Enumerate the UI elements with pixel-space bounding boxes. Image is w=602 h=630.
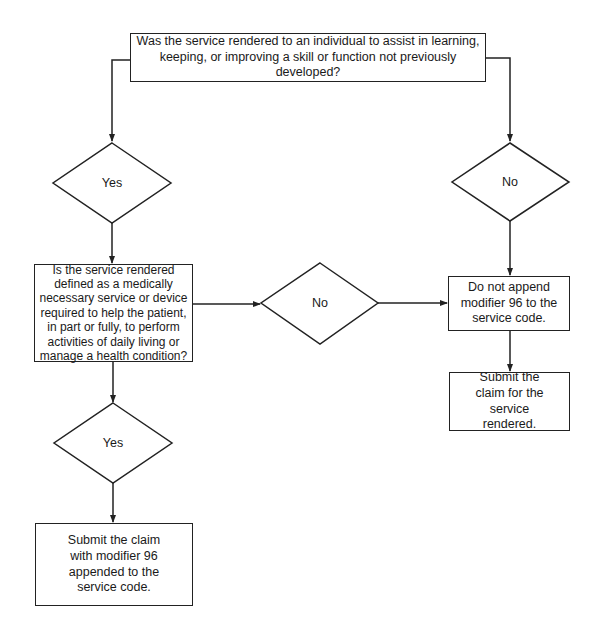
- decision-label-no-1: No: [502, 175, 518, 189]
- question-text: Was the service rendered to an individua…: [135, 34, 481, 81]
- connector-q1-to-no: [485, 58, 510, 141]
- question-box-skill-development: Was the service rendered to an individua…: [130, 33, 486, 82]
- result-text: Do not append modifier 96 to the service…: [453, 280, 565, 327]
- result-text: Submit the claim for the service rendere…: [468, 370, 551, 433]
- result-text: Submit the claim with modifier 96 append…: [56, 533, 172, 596]
- connector-q1-to-yes: [112, 60, 130, 141]
- result-box-submit-claim: Submit the claim for the service rendere…: [449, 372, 570, 431]
- decision-label-yes-2: Yes: [103, 436, 123, 450]
- decision-label-no-2: No: [312, 296, 328, 310]
- question-text: Is the service rendered defined as a med…: [39, 263, 188, 364]
- decision-label-yes-1: Yes: [102, 176, 122, 190]
- result-box-do-not-append: Do not append modifier 96 to the service…: [448, 276, 570, 331]
- question-box-medical-necessity: Is the service rendered defined as a med…: [34, 264, 193, 362]
- result-box-submit-with-modifier-96: Submit the claim with modifier 96 append…: [35, 523, 193, 606]
